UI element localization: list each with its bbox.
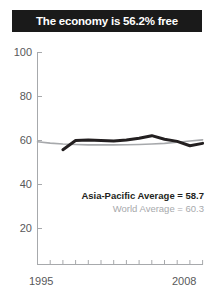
x-axis-ticks	[38, 260, 203, 265]
legend-item-world: World Average = 60.3	[58, 202, 204, 215]
series-asia-pacific-average	[63, 136, 203, 150]
legend-item-asia-pacific: Asia-Pacific Average = 58.7	[58, 189, 204, 202]
chart-container: The economy is 56.2% free 100 80 60 40 2…	[0, 0, 214, 297]
chart-legend: Asia-Pacific Average = 58.7 World Averag…	[58, 189, 204, 215]
y-axis-ticks	[38, 53, 43, 229]
plot-area	[0, 0, 214, 297]
